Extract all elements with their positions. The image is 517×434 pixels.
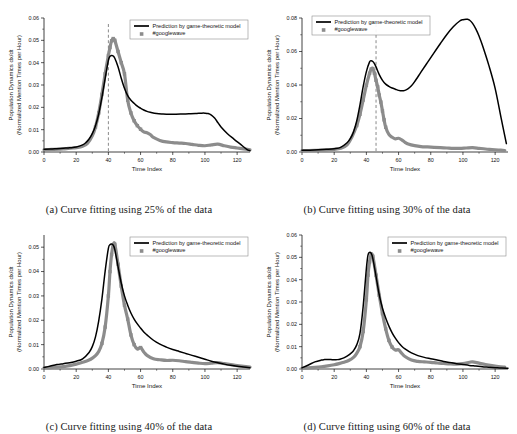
y-tick-label: 0.08 bbox=[287, 15, 298, 21]
legend-marker-swatch bbox=[322, 28, 326, 32]
legend-label-model: Prediction by game-theoretic model bbox=[411, 240, 499, 246]
legend-marker-swatch bbox=[140, 32, 144, 36]
chart-svg-c: 0.000.010.020.030.040.05020406080100120T… bbox=[0, 217, 258, 409]
x-tick-label: 120 bbox=[491, 374, 500, 380]
y-tick-label: 0.01 bbox=[29, 342, 40, 348]
x-tick-label: 80 bbox=[428, 374, 434, 380]
data-marker bbox=[113, 39, 116, 42]
data-marker bbox=[100, 342, 103, 345]
y-axis-title-line2: (Normalized Mention Times per Hour) bbox=[16, 35, 22, 135]
subplot-caption-d: (d) Curve fitting using 60% of the data bbox=[258, 421, 516, 432]
x-tick-label: 40 bbox=[105, 374, 111, 380]
subplot-b: 0.000.020.040.060.08020406080100120Time … bbox=[258, 0, 516, 217]
data-marker bbox=[368, 260, 371, 263]
chart-svg-b: 0.000.020.040.060.08020406080100120Time … bbox=[258, 0, 516, 192]
y-tick-label: 0.03 bbox=[29, 293, 40, 299]
x-tick-label: 20 bbox=[73, 157, 79, 163]
x-tick-label: 20 bbox=[331, 157, 337, 163]
legend: Prediction by game-theoretic model#googl… bbox=[312, 16, 430, 35]
chart-svg-d: 0.000.010.020.030.040.050.06020406080100… bbox=[258, 217, 516, 409]
legend-marker-swatch bbox=[398, 249, 402, 253]
y-axis-title-line1: Population Dynamics dx/dt bbox=[8, 266, 14, 337]
y-axis-title-line2: (Normalized Mention Times per Hour) bbox=[16, 252, 22, 352]
y-tick-label: 0.02 bbox=[287, 115, 298, 121]
data-marker bbox=[376, 85, 379, 88]
data-marker bbox=[132, 343, 135, 346]
axis-lines bbox=[302, 18, 508, 152]
y-tick-label: 0.01 bbox=[29, 127, 40, 133]
x-tick-label: 80 bbox=[170, 374, 176, 380]
legend-label-model: Prediction by game-theoretic model bbox=[153, 240, 241, 246]
data-marker bbox=[123, 303, 126, 306]
data-marker bbox=[361, 98, 364, 101]
data-marker bbox=[366, 274, 369, 277]
chart-svg-a: 0.000.010.020.030.040.050.06020406080100… bbox=[0, 0, 258, 192]
x-tick-label: 100 bbox=[458, 157, 467, 163]
data-marker bbox=[358, 345, 361, 348]
x-tick-label: 100 bbox=[200, 374, 209, 380]
x-tick-label: 60 bbox=[396, 374, 402, 380]
y-tick-label: 0.02 bbox=[29, 317, 40, 323]
data-marker bbox=[379, 100, 382, 103]
legend: Prediction by game-theoretic model#googl… bbox=[130, 237, 248, 256]
x-tick-label: 40 bbox=[363, 157, 369, 163]
y-tick-label: 0.04 bbox=[287, 277, 298, 283]
y-tick-label: 0.04 bbox=[29, 268, 40, 274]
x-axis-title: Time Index bbox=[132, 382, 163, 389]
y-axis-title-line1: Population Dynamics dx/dt bbox=[266, 266, 272, 337]
data-marker bbox=[365, 84, 368, 87]
data-marker bbox=[361, 330, 364, 333]
data-marker bbox=[139, 128, 142, 131]
x-axis-title: Time Index bbox=[390, 165, 421, 172]
data-marker bbox=[382, 118, 385, 121]
y-tick-label: 0.06 bbox=[287, 232, 298, 238]
y-tick-label: 0.05 bbox=[29, 244, 40, 250]
y-tick-label: 0.03 bbox=[287, 299, 298, 305]
plot-area-c: 0.000.010.020.030.040.05020406080100120T… bbox=[0, 217, 258, 409]
data-marker bbox=[384, 126, 387, 129]
x-tick-label: 0 bbox=[43, 374, 46, 380]
subplot-d: 0.000.010.020.030.040.050.06020406080100… bbox=[258, 217, 516, 434]
data-marker bbox=[390, 345, 393, 348]
y-tick-label: 0.00 bbox=[29, 366, 40, 372]
data-marker bbox=[132, 119, 135, 122]
data-marker bbox=[108, 270, 111, 273]
data-marker bbox=[384, 327, 387, 330]
data-marker bbox=[381, 109, 384, 112]
data-marker bbox=[374, 79, 377, 82]
model-prediction-curve bbox=[44, 244, 250, 368]
data-marker bbox=[110, 253, 113, 256]
y-axis-title-line1: Population Dynamics dx/dt bbox=[266, 49, 272, 120]
data-marker bbox=[126, 98, 129, 101]
plot-area-a: 0.000.010.020.030.040.050.06020406080100… bbox=[0, 0, 258, 192]
data-series-band bbox=[302, 68, 505, 150]
legend-label-data: #googlewave bbox=[153, 30, 186, 36]
y-tick-label: 0.04 bbox=[29, 60, 40, 66]
x-tick-label: 100 bbox=[458, 374, 467, 380]
y-axis-title-line2: (Normalized Mention Times per Hour) bbox=[274, 35, 280, 135]
legend-label-data: #googlewave bbox=[335, 26, 368, 32]
data-marker bbox=[368, 72, 371, 75]
subplot-caption-c: (c) Curve fitting using 40% of the data bbox=[0, 421, 258, 432]
y-tick-label: 0.05 bbox=[287, 254, 298, 260]
legend-marker-swatch bbox=[140, 249, 144, 253]
plot-area-d: 0.000.010.020.030.040.050.06020406080100… bbox=[258, 217, 516, 409]
x-tick-label: 0 bbox=[301, 374, 304, 380]
model-prediction-curve bbox=[302, 19, 506, 150]
data-marker bbox=[107, 294, 110, 297]
data-marker bbox=[365, 298, 368, 301]
plot-area-b: 0.000.020.040.060.08020406080100120Time … bbox=[258, 0, 516, 192]
data-series-band bbox=[44, 243, 250, 368]
subplot-a: 0.000.010.020.030.040.050.06020406080100… bbox=[0, 0, 258, 217]
data-marker bbox=[120, 61, 123, 64]
legend: Prediction by game-theoretic model#googl… bbox=[130, 20, 248, 39]
x-tick-label: 40 bbox=[105, 157, 111, 163]
x-tick-label: 120 bbox=[491, 157, 500, 163]
model-prediction-curve bbox=[44, 55, 250, 150]
y-axis-title-line1: Population Dynamics dx/dt bbox=[8, 49, 14, 120]
data-marker bbox=[387, 339, 390, 342]
x-tick-label: 40 bbox=[363, 374, 369, 380]
y-tick-label: 0.02 bbox=[29, 104, 40, 110]
x-tick-label: 60 bbox=[396, 157, 402, 163]
subplot-c: 0.000.010.020.030.040.05020406080100120T… bbox=[0, 217, 258, 434]
